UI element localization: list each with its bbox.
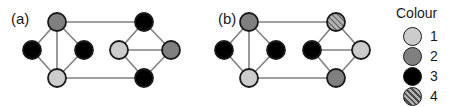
graph-node-b-r-left: [303, 41, 321, 59]
panel-label-a: (a): [11, 11, 29, 26]
graph-node-b-r-bottom: [327, 69, 345, 87]
graph-node-a-l-bottom: [48, 69, 66, 87]
graph-node-b-r-right: [352, 41, 370, 59]
graph-node-b-r-top: [327, 13, 345, 31]
panel-label-b: (b): [218, 11, 236, 26]
legend: Colour 1234: [396, 6, 458, 105]
graph-node-a-l-left: [23, 41, 41, 59]
legend-item-1: 1: [403, 26, 458, 46]
graph-node-b-l-left: [215, 41, 233, 59]
graph-node-a-l-right: [75, 41, 93, 59]
graph-node-a-l-top: [48, 13, 66, 31]
graph-node-b-l-bottom: [240, 69, 258, 87]
legend-swatch-3: [403, 67, 422, 86]
legend-swatch-1: [403, 27, 422, 46]
legend-label-1: 1: [430, 29, 438, 43]
legend-item-4: 4: [403, 86, 458, 106]
graph-node-a-r-top: [135, 13, 153, 31]
graph-node-b-l-top: [240, 13, 258, 31]
graph-node-a-r-bottom: [135, 69, 153, 87]
legend-item-2: 2: [403, 46, 458, 66]
graph-nodes: [23, 13, 370, 87]
graph-colouring-figure: (a) (b) Colour 1234: [0, 0, 459, 107]
legend-swatch-4: [403, 87, 422, 106]
legend-label-2: 2: [430, 49, 438, 63]
graph-node-b-l-right: [267, 41, 285, 59]
legend-label-4: 4: [430, 89, 438, 103]
legend-swatch-2: [403, 47, 422, 66]
graph-node-a-r-right: [162, 41, 180, 59]
legend-label-3: 3: [430, 69, 438, 83]
legend-item-3: 3: [403, 66, 458, 86]
legend-title: Colour: [396, 6, 437, 20]
graph-node-a-r-left: [110, 41, 128, 59]
